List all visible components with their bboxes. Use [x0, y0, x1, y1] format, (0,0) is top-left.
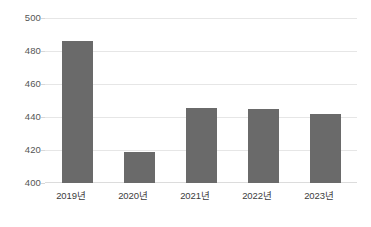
y-axis-tick-label: 420 — [5, 145, 41, 155]
x-axis-label-2021: 2021년 — [166, 190, 224, 202]
bar-2020[interactable] — [124, 152, 155, 183]
y-axis-tick-mark — [41, 183, 45, 184]
y-axis: 500 480 460 440 420 400 — [0, 0, 41, 227]
bar-2021[interactable] — [186, 108, 217, 183]
x-axis-label-2019: 2019년 — [42, 190, 100, 202]
bar-2023[interactable] — [310, 114, 341, 183]
x-axis-label-2022: 2022년 — [228, 190, 286, 202]
bar-chart: 500 480 460 440 420 400 2019년 2020년 2021… — [0, 0, 371, 227]
y-axis-tick-label: 500 — [5, 13, 41, 23]
bar-2022[interactable] — [248, 109, 279, 183]
y-axis-tick-label: 400 — [5, 178, 41, 188]
y-axis-tick-label: 440 — [5, 112, 41, 122]
y-axis-tick-label: 460 — [5, 79, 41, 89]
x-axis-label-2023: 2023년 — [290, 190, 348, 202]
x-axis-label-2020: 2020년 — [104, 190, 162, 202]
plot-area — [45, 18, 357, 183]
bars-layer — [45, 18, 357, 183]
y-axis-tick-label: 480 — [5, 46, 41, 56]
bar-2019[interactable] — [62, 41, 93, 183]
